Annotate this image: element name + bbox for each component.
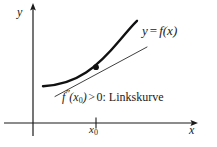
tangent-point-marker [93,64,99,70]
condition-curve-type-name: Linkskurve [106,90,164,104]
y-axis [30,3,36,136]
y-axis-label: y [17,6,22,18]
x-axis-label: x [189,124,194,136]
curve-equation-label: y=f(x) [142,24,177,37]
math-figure: y x x0 y=f(x) f′′(x0)>0:Linkskurve [0,0,217,147]
x0-tick-label: x0 [89,124,98,137]
curve-paren-close: ) [173,23,177,38]
function-curve [43,21,137,86]
condition-relation: > [87,90,97,104]
curve-lhs: y [142,23,148,38]
second-derivative-condition-label: f′′(x0)>0:Linkskurve [62,88,163,105]
x0-subscript: 0 [94,128,98,137]
curve-equals: = [148,23,159,38]
figure-canvas [0,0,217,147]
